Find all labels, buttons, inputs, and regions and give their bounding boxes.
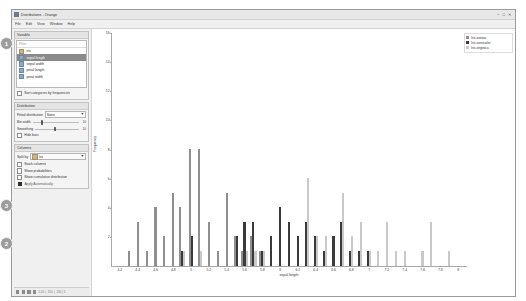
bar-iris-setosa[interactable] bbox=[128, 251, 130, 266]
histogram-bin[interactable] bbox=[314, 33, 318, 266]
histogram-bin[interactable] bbox=[395, 33, 397, 266]
histogram-bin[interactable] bbox=[137, 33, 139, 266]
info-icon[interactable] bbox=[16, 290, 19, 293]
histogram-bin[interactable] bbox=[358, 33, 362, 266]
histogram-bin[interactable] bbox=[172, 33, 174, 266]
bar-iris-virginica[interactable] bbox=[351, 236, 353, 265]
histogram-bin[interactable] bbox=[386, 33, 388, 266]
bar-iris-versicolor[interactable] bbox=[279, 207, 281, 265]
bar-iris-virginica[interactable] bbox=[307, 178, 309, 265]
bar-iris-setosa[interactable] bbox=[172, 193, 174, 266]
variable-list[interactable]: Filter iris sepal length sepal width bbox=[16, 40, 87, 88]
bar-iris-setosa[interactable] bbox=[226, 193, 228, 266]
histogram-bin[interactable] bbox=[332, 33, 334, 266]
report-icon[interactable] bbox=[33, 290, 36, 293]
bar-iris-setosa[interactable] bbox=[217, 251, 219, 266]
variable-list-item-petal-width[interactable]: petal width bbox=[17, 74, 86, 80]
legend-item-iris-virginica[interactable]: Iris-virginica bbox=[466, 45, 510, 50]
checkbox-show-probabilities[interactable] bbox=[17, 168, 22, 173]
menu-item-view[interactable]: View bbox=[37, 22, 45, 26]
variable-search-input[interactable]: Filter bbox=[17, 41, 86, 48]
histogram-bin[interactable] bbox=[217, 33, 219, 266]
bar-iris-virginica[interactable] bbox=[200, 251, 202, 266]
split-by-select[interactable]: iris ▼ bbox=[30, 153, 86, 160]
histogram-bin[interactable] bbox=[305, 33, 309, 266]
bar-iris-virginica[interactable] bbox=[360, 222, 362, 266]
sort-categories-checkbox-row[interactable]: Sort categories by frequencies bbox=[17, 90, 86, 97]
bar-iris-virginica[interactable] bbox=[342, 193, 344, 266]
slider-handle[interactable] bbox=[41, 120, 43, 125]
histogram-bin[interactable] bbox=[146, 33, 148, 266]
bar-iris-virginica[interactable] bbox=[430, 222, 432, 266]
bar-iris-setosa[interactable] bbox=[137, 222, 139, 266]
histogram-bin[interactable] bbox=[377, 33, 379, 266]
hide-bars-checkbox-row[interactable]: Hide bars bbox=[17, 132, 86, 139]
checkbox-stack-columns[interactable] bbox=[17, 162, 22, 167]
histogram-bin[interactable] bbox=[340, 33, 344, 266]
histogram-bin[interactable] bbox=[270, 33, 272, 266]
checkbox-hide-bars[interactable] bbox=[17, 133, 22, 138]
bar-iris-setosa[interactable] bbox=[208, 222, 210, 266]
bar-iris-virginica[interactable] bbox=[421, 251, 423, 266]
bar-iris-versicolor[interactable] bbox=[270, 236, 272, 265]
menu-item-help[interactable]: Help bbox=[68, 22, 75, 26]
bar-iris-virginica[interactable] bbox=[254, 251, 256, 266]
histogram-bin[interactable] bbox=[189, 33, 193, 266]
bar-iris-versicolor[interactable] bbox=[332, 236, 334, 265]
bar-iris-virginica[interactable] bbox=[377, 251, 379, 266]
menu-item-file[interactable]: File bbox=[15, 22, 21, 26]
histogram-bin[interactable] bbox=[448, 33, 450, 266]
bar-iris-setosa[interactable] bbox=[198, 149, 200, 265]
menu-item-window[interactable]: Window bbox=[50, 22, 63, 26]
bar-iris-virginica[interactable] bbox=[183, 251, 185, 266]
histogram-bin[interactable] bbox=[226, 33, 228, 266]
fitted-distribution-select[interactable]: None ▼ bbox=[45, 111, 86, 118]
histogram-bin[interactable] bbox=[250, 33, 256, 266]
histogram-bin[interactable] bbox=[421, 33, 423, 266]
apply-automatically-row[interactable]: Apply Automatically bbox=[17, 182, 86, 186]
bar-iris-virginica[interactable] bbox=[404, 251, 406, 266]
bar-iris-virginica[interactable] bbox=[316, 236, 318, 265]
histogram-bin[interactable] bbox=[279, 33, 281, 266]
checkbox-sort-categories[interactable] bbox=[17, 91, 22, 96]
bar-iris-setosa[interactable] bbox=[146, 251, 148, 266]
histogram-bin[interactable] bbox=[349, 33, 353, 266]
checkbox-show-cumulative-distribution[interactable] bbox=[17, 175, 22, 180]
bar-iris-setosa[interactable] bbox=[163, 236, 165, 265]
histogram-bin[interactable] bbox=[241, 33, 247, 266]
histogram-bin[interactable] bbox=[198, 33, 202, 266]
maximize-button[interactable]: □ bbox=[503, 13, 505, 17]
smoothing-slider[interactable] bbox=[35, 127, 79, 132]
menu-item-edit[interactable]: Edit bbox=[26, 22, 32, 26]
minimize-button[interactable]: ─ bbox=[497, 13, 500, 17]
plot-canvas[interactable]: 246810121416 4.24.44.64.855.25.45.65.866… bbox=[111, 33, 467, 266]
bar-iris-virginica[interactable] bbox=[369, 251, 371, 266]
histogram-bin[interactable] bbox=[163, 33, 165, 266]
bar-iris-setosa[interactable] bbox=[154, 207, 156, 265]
bar-iris-virginica[interactable] bbox=[246, 251, 248, 266]
bar-iris-virginica[interactable] bbox=[395, 251, 397, 266]
histogram-bin[interactable] bbox=[404, 33, 406, 266]
bar-iris-virginica[interactable] bbox=[263, 251, 265, 266]
histogram-bin[interactable] bbox=[259, 33, 265, 266]
histogram-bin[interactable] bbox=[323, 33, 327, 266]
bar-iris-versicolor[interactable] bbox=[288, 222, 290, 266]
bar-iris-virginica[interactable] bbox=[386, 222, 388, 266]
histogram-bin[interactable] bbox=[297, 33, 299, 266]
close-button[interactable]: ✕ bbox=[508, 13, 511, 17]
histogram-bin[interactable] bbox=[367, 33, 371, 266]
histogram-bin[interactable] bbox=[154, 33, 156, 266]
output-icon[interactable] bbox=[27, 290, 30, 293]
histogram-bin[interactable] bbox=[179, 33, 185, 266]
bar-iris-versicolor[interactable] bbox=[297, 236, 299, 265]
histogram-bin[interactable] bbox=[128, 33, 130, 266]
bar-iris-versicolor[interactable] bbox=[236, 236, 238, 265]
show-cumulative-checkbox-row[interactable]: Show cumulative distribution bbox=[17, 174, 86, 181]
histogram-bin[interactable] bbox=[430, 33, 432, 266]
slider-handle[interactable] bbox=[54, 127, 56, 132]
input-icon[interactable] bbox=[22, 290, 25, 293]
bar-iris-virginica[interactable] bbox=[448, 251, 450, 266]
histogram-bin[interactable] bbox=[288, 33, 290, 266]
histogram-bin[interactable] bbox=[234, 33, 238, 266]
bar-iris-versicolor[interactable] bbox=[191, 236, 193, 265]
